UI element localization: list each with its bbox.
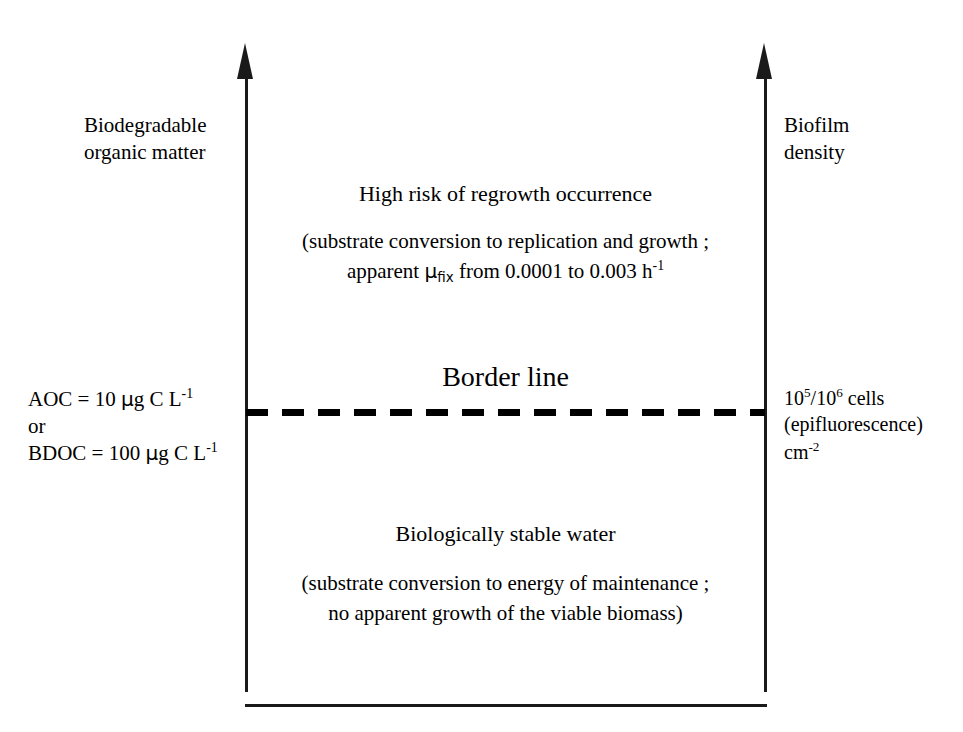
upper-detail-prefix: apparent <box>347 259 425 283</box>
figure-canvas: Biodegradable organic matter Biofilm den… <box>0 0 963 732</box>
cell-count-threshold-value: 105/106 cells <box>784 386 884 412</box>
baseline <box>245 704 767 707</box>
cells-suffix: cells <box>843 387 885 409</box>
aoc-exponent: -1 <box>182 386 194 401</box>
area-unit-exponent: -2 <box>808 439 819 454</box>
threshold-conjunction: or <box>28 413 46 440</box>
border-line-title: Border line <box>246 357 765 398</box>
cells-separator: /10 <box>811 387 837 409</box>
bdoc-prefix: BDOC = 100 <box>28 441 145 465</box>
right-axis-label: Biofilm density <box>784 112 849 166</box>
area-unit-label: cm-2 <box>784 440 819 466</box>
upper-detail-middle: from 0.0001 to 0.003 h <box>454 259 653 283</box>
aoc-micro-symbol: µ <box>121 387 134 411</box>
upper-zone-detail: (substrate conversion to replication and… <box>246 226 765 288</box>
lower-zone-detail-line2: no apparent growth of the viable biomass… <box>246 598 765 628</box>
aoc-unit: g C L <box>134 387 182 411</box>
bdoc-exponent: -1 <box>206 440 218 455</box>
left-axis-label: Biodegradable organic matter <box>84 112 206 166</box>
upper-zone-detail-line1: (substrate conversion to replication and… <box>246 226 765 256</box>
right-axis-arrowhead-icon <box>756 43 772 79</box>
bdoc-unit: g C L <box>158 441 206 465</box>
left-axis-arrowhead-icon <box>237 43 253 79</box>
bdoc-micro-symbol: µ <box>145 441 158 465</box>
counting-method-label: (epifluorescence) <box>784 412 923 438</box>
cells-exponent-2: 6 <box>836 385 843 400</box>
lower-zone-heading: Biologically stable water <box>246 518 765 550</box>
area-unit-base: cm <box>784 441 808 463</box>
cells-exponent-1: 5 <box>804 385 811 400</box>
cells-base-1: 10 <box>784 387 804 409</box>
border-line-dashed-divider <box>246 409 765 416</box>
left-axis-label-line2: organic matter <box>84 139 206 166</box>
mu-symbol: µ <box>424 259 437 283</box>
right-axis-label-line2: density <box>784 139 849 166</box>
mu-subscript-fix: fix <box>437 270 453 285</box>
upper-detail-exponent: -1 <box>653 258 665 273</box>
bdoc-threshold-value: BDOC = 100 µg C L-1 <box>28 440 218 467</box>
upper-zone-heading: High risk of regrowth occurrence <box>246 178 765 210</box>
left-axis-label-line1: Biodegradable <box>84 112 206 139</box>
aoc-threshold-value: AOC = 10 µg C L-1 <box>28 386 193 413</box>
lower-zone-detail: (substrate conversion to energy of maint… <box>246 568 765 629</box>
aoc-prefix: AOC = 10 <box>28 387 121 411</box>
right-axis-label-line1: Biofilm <box>784 112 849 139</box>
lower-zone-detail-line1: (substrate conversion to energy of maint… <box>246 568 765 598</box>
upper-zone-detail-line2: apparent µfix from 0.0001 to 0.003 h-1 <box>246 256 765 288</box>
